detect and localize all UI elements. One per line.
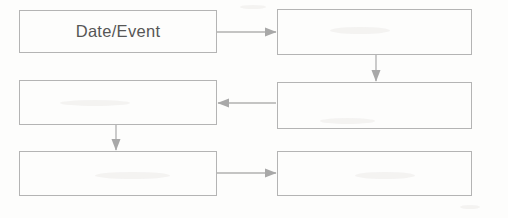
flowchart-node-2[interactable] <box>277 9 472 55</box>
flowchart-node-5[interactable] <box>19 151 217 196</box>
flowchart-diagram: Date/Event <box>0 0 508 218</box>
scan-artifact <box>460 205 480 209</box>
flowchart-node-4[interactable] <box>277 82 472 129</box>
flowchart-node-6[interactable] <box>277 151 472 196</box>
node-label-date-event: Date/Event <box>76 22 161 41</box>
scan-artifact <box>240 5 266 9</box>
flowchart-node-date-event[interactable]: Date/Event <box>19 10 217 53</box>
flowchart-node-3[interactable] <box>19 80 217 125</box>
